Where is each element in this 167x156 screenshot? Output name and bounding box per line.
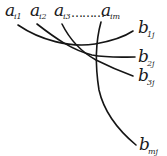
top-label-ai2: a i2 [30,0,47,21]
right-label-b1j: b 1j [138,17,155,39]
label-sub: i2 [39,12,47,21]
right-label-b3j: b 3j [138,65,155,87]
label-sub: 1j [147,30,155,39]
top-label-ai3: a i3 [54,0,71,21]
label-sub: i3 [63,12,71,21]
label-sub: im [110,12,121,21]
top-label-ai1: a i1 [5,0,22,21]
label-sub: i1 [14,12,22,21]
curve-ai3-to-b3j [62,24,133,76]
curve-aim-to-bmj [97,22,136,145]
label-sub: 3j [147,78,155,87]
curve-mapping-diagram: a i1 a i2 a i3 ……… a im b 1j b 2j b 3j b… [0,0,167,156]
label-sub: mj [148,147,159,156]
right-label-bmj: b mj [139,134,159,156]
top-label-aim: a im [101,0,121,21]
curve-ai1-to-b1j [18,25,133,45]
ellipsis: ……… [71,6,104,20]
